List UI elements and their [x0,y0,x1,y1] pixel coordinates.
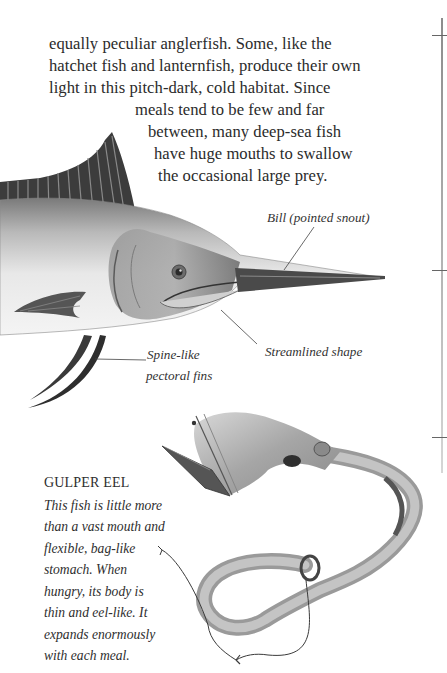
paragraph-line: equally peculiar anglerfish. Some, like … [49,33,332,55]
caption-line: than a vast mouth and [44,516,165,538]
book-page: equally peculiar anglerfish. Some, like … [0,0,447,673]
margin-tick [432,270,447,271]
paragraph-line: hatchet fish and lanternfish, produce th… [49,55,361,77]
caption-line: hungry, its body is [44,581,144,603]
label-pectoral-fins-line1: Spine-like [147,345,200,365]
margin-rule [441,18,443,473]
caption-title: GULPER EEL [44,475,130,491]
bill-leader-line [284,227,314,270]
margin-tick [432,437,447,438]
caption-line: thin and eel-like. It [44,602,147,624]
paragraph-line: have huge mouths to swallow [154,143,353,165]
caption-line: expands enormously [44,624,155,646]
caption-line: This fish is little more [44,495,162,517]
label-pectoral-fins-line2: pectoral fins [146,366,212,386]
label-bill: Bill (pointed snout) [267,208,370,228]
caption-line: flexible, bag-like [44,538,135,560]
gulper-eel-illustration [158,412,415,664]
caption-line: with each meal. [44,645,130,667]
label-streamlined-shape: Streamlined shape [265,342,362,362]
streamlined-leader-line [221,310,257,344]
margin-tick [432,35,447,36]
paragraph-line: between, many deep-sea fish [148,121,341,143]
caption-line: stomach. When [44,559,127,581]
paragraph-line: light in this pitch-dark, cold habitat. … [49,77,331,99]
paragraph-line: the occasional large prey. [158,165,327,187]
fins-leader-line [95,359,146,360]
paragraph-line: meals tend to be few and far [135,99,324,121]
